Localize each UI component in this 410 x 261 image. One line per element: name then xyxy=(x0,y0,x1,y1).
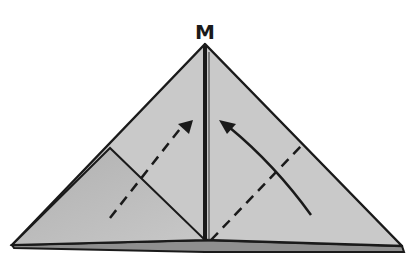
origami-diagram: M xyxy=(0,0,410,261)
fold-diagram-svg xyxy=(0,0,410,261)
